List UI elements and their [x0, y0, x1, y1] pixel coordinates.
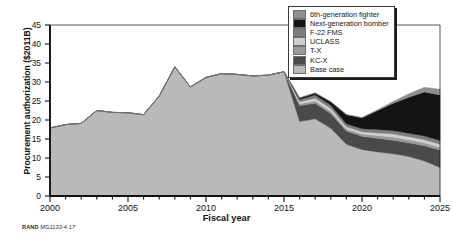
- legend-item-label: Next-generation bomber: [310, 19, 389, 28]
- x-tick-label: 2005: [108, 203, 148, 213]
- y-tick-label: 20: [17, 115, 41, 125]
- x-tick-label: 2025: [420, 203, 453, 213]
- x-tick-label: 2000: [30, 203, 70, 213]
- legend-swatch-icon: [293, 37, 306, 46]
- legend-item-label: T-X: [310, 46, 321, 55]
- legend-item-label: KC-X: [310, 56, 327, 65]
- legend-item[interactable]: KC-X: [293, 55, 389, 64]
- legend-swatch-icon: [293, 19, 306, 28]
- credit-number: MG1133-4.17: [40, 224, 75, 230]
- x-tick-label: 2015: [264, 203, 304, 213]
- y-tick-label: 25: [17, 96, 41, 106]
- legend-item-label: Base case: [310, 65, 344, 74]
- legend-swatch-icon: [293, 28, 306, 37]
- y-tick-label: 5: [17, 172, 41, 182]
- figure-container: Procurement authorization ($2011B) Fisca…: [0, 0, 453, 244]
- y-tick-label: 10: [17, 153, 41, 163]
- legend-item[interactable]: UCLASS: [293, 37, 389, 46]
- y-tick-label: 30: [17, 77, 41, 87]
- legend-item-label: 6th-generation fighter: [310, 10, 379, 19]
- legend-item[interactable]: T-X: [293, 46, 389, 55]
- figure-credit: RAND MG1133-4.17: [22, 224, 75, 230]
- x-axis-title: Fiscal year: [0, 213, 453, 223]
- legend-item-label: F-22 FMS: [310, 28, 342, 37]
- x-tick-label: 2010: [186, 203, 226, 213]
- chart-legend: 6th-generation fighterNext-generation bo…: [288, 6, 395, 78]
- legend-item[interactable]: F-22 FMS: [293, 28, 389, 37]
- y-tick-label: 35: [17, 58, 41, 68]
- legend-item[interactable]: Next-generation bomber: [293, 19, 389, 28]
- y-tick-label: 40: [17, 39, 41, 49]
- y-tick-label: 0: [17, 191, 41, 201]
- legend-item[interactable]: Base case: [293, 65, 389, 74]
- legend-swatch-icon: [293, 56, 306, 65]
- x-tick-label: 2020: [342, 203, 382, 213]
- y-tick-label: 45: [17, 20, 41, 30]
- y-tick-label: 15: [17, 134, 41, 144]
- legend-item[interactable]: 6th-generation fighter: [293, 10, 389, 19]
- legend-swatch-icon: [293, 10, 306, 19]
- area-series-group: [50, 67, 440, 196]
- legend-item-label: UCLASS: [310, 37, 339, 46]
- legend-swatch-icon: [293, 65, 306, 74]
- legend-swatch-icon: [293, 46, 306, 55]
- credit-org: RAND: [22, 224, 39, 230]
